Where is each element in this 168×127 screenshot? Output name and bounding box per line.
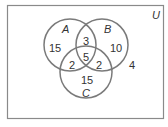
set-c-label: C (82, 87, 90, 99)
region-outside: 4 (129, 59, 135, 71)
universe-label: U (152, 9, 160, 21)
region-ac-only: 2 (69, 59, 75, 71)
venn-diagram: U A B C 15 10 15 3 2 2 5 4 (0, 0, 168, 127)
set-b-label: B (104, 23, 111, 35)
region-a-only: 15 (49, 42, 61, 54)
set-a-label: A (61, 23, 69, 35)
region-c-only: 15 (81, 74, 93, 86)
region-ab-only: 3 (83, 35, 89, 47)
region-b-only: 10 (110, 42, 122, 54)
region-abc: 5 (83, 51, 89, 63)
region-bc-only: 2 (96, 59, 102, 71)
